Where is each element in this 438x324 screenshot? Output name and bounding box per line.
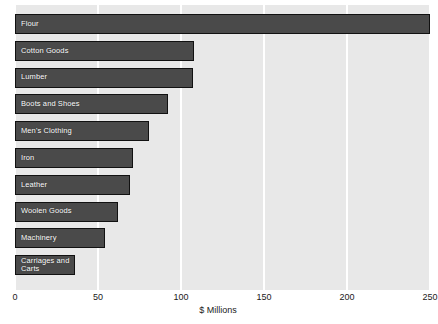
bars-layer: FlourCotton GoodsLumberBoots and ShoesMe… (15, 5, 430, 290)
bar-row[interactable]: Woolen Goods (15, 202, 430, 222)
bar-row[interactable]: Flour (15, 14, 430, 34)
bar-label: Machinery (21, 228, 57, 248)
bar-label: Woolen Goods (21, 202, 72, 222)
bar-row[interactable]: Iron (15, 148, 430, 168)
x-tick-label: 50 (93, 292, 103, 302)
x-tick-label: 250 (422, 292, 437, 302)
bar-row[interactable]: Lumber (15, 68, 430, 88)
bar-label: Men's Clothing (21, 121, 72, 141)
x-tick-label: 200 (339, 292, 354, 302)
bar-row[interactable]: Men's Clothing (15, 121, 430, 141)
x-tick-label: 150 (256, 292, 271, 302)
bar-label: Cotton Goods (21, 41, 68, 61)
bar-row[interactable]: Leather (15, 175, 430, 195)
plot-area: FlourCotton GoodsLumberBoots and ShoesMe… (15, 5, 430, 290)
bar-label: Flour (21, 14, 39, 34)
bar-row[interactable]: Machinery (15, 228, 430, 248)
x-tick-label: 100 (173, 292, 188, 302)
bar-row[interactable]: Cotton Goods (15, 41, 430, 61)
bar-label: Boots and Shoes (21, 94, 80, 114)
bar-label: Carriages and Carts (21, 255, 69, 275)
bar-label: Leather (21, 175, 47, 195)
bar-row[interactable]: Carriages and Carts (15, 255, 430, 275)
bar-row[interactable]: Boots and Shoes (15, 94, 430, 114)
x-axis-title: $ Millions (0, 305, 436, 315)
x-tick-label: 0 (12, 292, 17, 302)
bar-label: Lumber (21, 68, 47, 88)
bar[interactable] (15, 14, 430, 34)
bar-label: Iron (21, 148, 34, 168)
